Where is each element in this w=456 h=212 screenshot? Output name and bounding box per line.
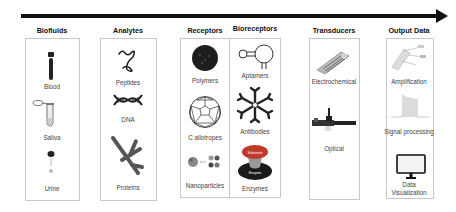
column-title-receptors: Receptors [180,26,230,35]
optical-setup-icon [311,108,357,134]
enzyme-text: Enzyme [249,171,262,175]
label-urine: Urine [25,185,79,193]
dna-icon [113,94,143,106]
column-title-biofluids: Biofluids [25,26,79,35]
amplification-icon [390,43,430,71]
label-antibodies: Antibodies [229,128,281,136]
column-title-bioreceptors: Bioreceptors [229,24,281,33]
polymer-sphere-icon [191,44,219,72]
urine-drop-icon [45,150,57,176]
label-nanoparticles: Nanoparticles [180,182,230,190]
label-enzymes: Enzymes [229,185,281,193]
label-c-allotropes: C allotropes [180,134,230,142]
electrochemical-electrode-icon [315,50,351,74]
label-saliva: Saliva [25,134,79,142]
fullerene-icon [188,95,222,129]
antibodies-icon [237,87,273,123]
label-amplification: Amplification [384,78,434,86]
label-peptides: Peptides [100,79,156,87]
flow-arrow-line [21,14,439,18]
protein-icon [110,135,146,179]
monitor-icon [396,154,426,180]
column-title-analytes: Analytes [100,26,156,35]
label-electrochemical: Electrochemical [309,78,359,86]
column-title-transducers: Transducers [309,26,359,35]
label-signal-processing: Signal processing [384,128,434,136]
label-data-visualization: Data Visualization [384,181,434,196]
label-proteins: Proteins [100,184,156,192]
label-optical: Optical [309,145,359,153]
aptamer-icon [236,44,276,70]
label-blood: Blood [25,83,79,91]
saliva-tube-icon [32,100,62,130]
peptide-icon [116,48,138,74]
label-polymers: Polymers [180,77,230,85]
column-title-output-data: Output Data [384,26,434,35]
enzyme-substrate-icon: Substrate Enzyme [236,143,274,181]
substrate-text: Substrate [248,151,263,155]
label-aptamers: Aptamers [229,72,281,80]
nanoparticles-icon [186,153,224,171]
label-dna: DNA [100,116,156,124]
signal-processing-icon [390,93,430,123]
blood-tube-icon [44,52,58,82]
flow-arrow-head [436,9,448,23]
